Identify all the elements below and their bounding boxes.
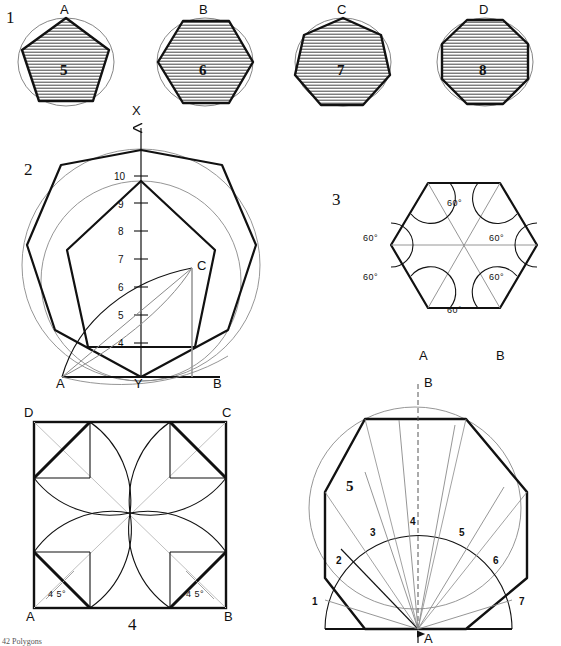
panel-2-scale-4: 4 (118, 338, 124, 349)
panel-2-scale-6: 6 (118, 282, 124, 293)
panel-2-scale-10: 10 (114, 171, 125, 182)
panel-4-number: 4 (128, 615, 137, 635)
panel-5-division-1: 1 (312, 596, 318, 607)
panel-2-scale-8: 8 (118, 226, 124, 237)
panel-4-octagon-in-square (34, 422, 226, 608)
panel-5-number: 5 (346, 478, 354, 495)
panel-4-corner-d: D (24, 405, 33, 420)
panel-3-point-b: B (496, 348, 505, 363)
panel-5-point-a: A (424, 631, 433, 646)
panel-4-corner-c: C (222, 405, 231, 420)
panel-1-sides-d: 8 (479, 62, 487, 79)
panel-5-division-4: 4 (410, 516, 416, 527)
panel-5-division-5: 5 (459, 527, 465, 538)
panel-1-sides-b: 6 (199, 62, 207, 79)
panel-2-point-c: C (197, 258, 206, 273)
panel-5-point-b: B (424, 375, 433, 390)
panel-2-number: 2 (24, 160, 33, 180)
panel-4-corner-a: A (26, 609, 35, 624)
panel-1-number: 1 (6, 8, 15, 28)
panel-2-construction (22, 128, 260, 385)
panel-1-label-a: A (60, 2, 69, 17)
panel-2-point-a: A (56, 376, 65, 391)
panel-4-angle-right: 4 5° (186, 589, 204, 599)
panel-2-axis-x: X (132, 103, 141, 118)
panel-3-number: 3 (332, 190, 341, 210)
panel-5-radial-octagon (309, 384, 527, 643)
panel-5-division-2: 2 (336, 555, 342, 566)
panel-3-angle-lower-right: 60° (489, 272, 504, 282)
panel-5-division-7: 7 (519, 596, 525, 607)
panel-2-axis-y: Y (134, 376, 143, 391)
panel-2-point-b: B (213, 376, 222, 391)
panel-1-polygons (18, 18, 533, 106)
panel-5-division-3: 3 (370, 527, 376, 538)
panel-3-angle-bottom: 60° (447, 305, 462, 315)
panel-3-angle-upper-left: 60° (363, 233, 378, 243)
figure-sheet: 1 A B C D 5 6 7 8 2 X Y A B C 10 9 8 7 6… (0, 0, 561, 646)
panel-3-angle-top: 60° (447, 198, 462, 208)
panel-1-label-b: B (199, 2, 208, 17)
panel-5-division-6: 6 (493, 555, 499, 566)
panel-3-hexagon (391, 183, 537, 308)
panel-3-angle-upper-right: 60° (489, 233, 504, 243)
technical-drawing-canvas (0, 0, 561, 646)
panel-1-label-d: D (479, 2, 488, 17)
panel-1-label-c: C (337, 2, 346, 17)
panel-2-scale-9: 9 (118, 199, 124, 210)
panel-2-scale-5: 5 (118, 310, 124, 321)
panel-4-angle-left: 4 5° (48, 589, 66, 599)
panel-3-point-a: A (419, 348, 428, 363)
figure-caption: 42 Polygons (2, 637, 42, 646)
panel-1-sides-a: 5 (60, 62, 68, 79)
panel-3-angle-lower-left: 60° (363, 272, 378, 282)
panel-2-scale-7: 7 (118, 254, 124, 265)
panel-1-sides-c: 7 (337, 62, 345, 79)
panel-4-corner-b: B (224, 609, 233, 624)
